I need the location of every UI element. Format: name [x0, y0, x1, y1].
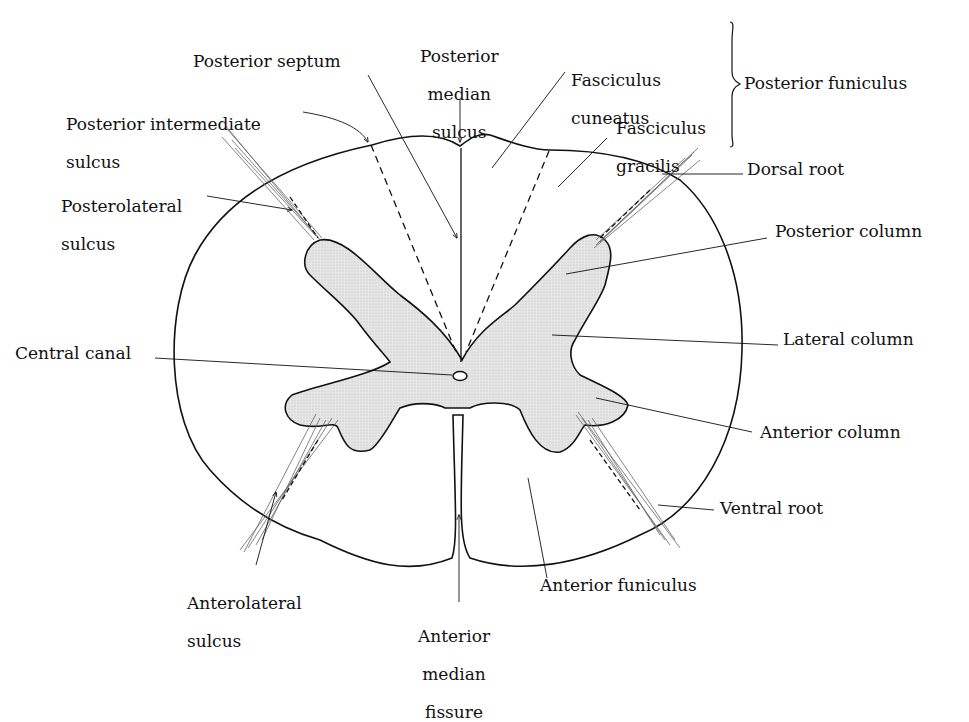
label-fasciculus-gracilis: Fasciculus gracilis — [616, 100, 706, 195]
label-line: sulcus — [66, 153, 261, 172]
label-dorsal-root: Dorsal root — [747, 160, 844, 179]
label-anterolateral-sulcus: Anterolateral sulcus — [187, 575, 302, 670]
central-canal — [453, 372, 467, 381]
label-line: Fasciculus — [616, 119, 706, 138]
label-lateral-column: Lateral column — [783, 330, 914, 349]
label-line: Anterolateral — [187, 594, 302, 613]
label-anterior-column: Anterior column — [760, 423, 901, 442]
leader-posterior-intermediate-sulcus — [303, 112, 368, 142]
white-matter-outline — [174, 134, 742, 566]
label-line: Posterior — [420, 47, 499, 66]
label-line: Fasciculus — [571, 71, 661, 90]
label-line: sulcus — [420, 123, 499, 142]
label-ventral-root: Ventral root — [720, 499, 823, 518]
label-line: Posterolateral — [61, 197, 182, 216]
label-posterior-intermediate-sulcus: Posterior intermediate sulcus — [66, 96, 261, 191]
label-posterolateral-sulcus: Posterolateral sulcus — [61, 178, 182, 273]
label-posterior-funiculus: Posterior funiculus — [744, 74, 907, 93]
posterior-funiculus-brace — [730, 22, 740, 147]
label-posterior-column: Posterior column — [775, 222, 922, 241]
label-line: Posterior intermediate — [66, 115, 261, 134]
label-anterior-funiculus: Anterior funiculus — [540, 576, 697, 595]
label-central-canal: Central canal — [15, 344, 131, 363]
label-line: median — [418, 665, 490, 684]
label-posterior-median-sulcus: Posterior median sulcus — [420, 28, 499, 161]
label-line: gracilis — [616, 157, 706, 176]
label-line: Anterior — [418, 627, 490, 646]
label-anterior-median-fissure: Anterior median fissure — [418, 608, 490, 722]
label-line: sulcus — [187, 632, 302, 651]
label-line: fissure — [418, 703, 490, 722]
label-posterior-septum: Posterior septum — [193, 52, 341, 71]
label-line: median — [420, 85, 499, 104]
label-line: sulcus — [61, 235, 182, 254]
